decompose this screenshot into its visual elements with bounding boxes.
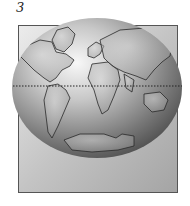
globe-diagram [0, 0, 190, 206]
globe [12, 18, 182, 158]
